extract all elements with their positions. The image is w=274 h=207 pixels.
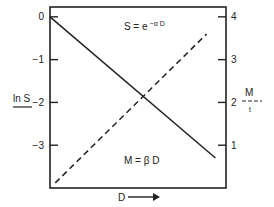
right-axis-label: M [245, 87, 253, 98]
right-tick-label: 2 [231, 97, 237, 108]
left-tick-label: −1 [33, 54, 45, 65]
right-tick-label: 1 [231, 140, 237, 151]
right-tick-label: 3 [231, 54, 237, 65]
series-line-ln-s [50, 17, 215, 158]
left-tick-label: −2 [33, 97, 45, 108]
series-annotation: M = β D [124, 155, 159, 166]
right-axis-ticks: 4321 [218, 11, 237, 150]
left-axis-label: ln S [13, 93, 31, 104]
x-axis-label: D [118, 192, 125, 203]
annotations: S = e−α DM = β D [124, 20, 165, 167]
series-annotation: S = e−α D [124, 20, 165, 32]
series-annotation-exponent: −α D [150, 20, 165, 27]
right-axis-label-sub: t [249, 106, 251, 113]
left-tick-label: 0 [38, 11, 44, 22]
chart: 0−1−2−3 4321 S = e−α DM = β D ln S M t D [0, 0, 274, 207]
left-tick-label: −3 [33, 140, 45, 151]
left-axis-ticks: 0−1−2−3 [33, 11, 58, 150]
x-axis-arrow-head [153, 193, 160, 201]
right-tick-label: 4 [231, 11, 237, 22]
